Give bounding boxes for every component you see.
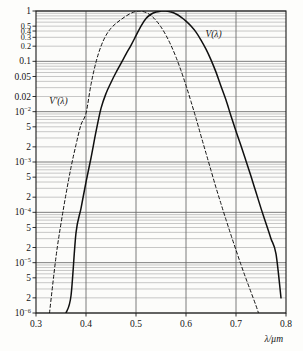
y-axis-tick-label: 0.1 (19, 56, 31, 66)
x-axis-tick-label: 0.5 (130, 319, 142, 329)
scotopic-curve-label: V'(λ) (49, 96, 67, 107)
figure-container: 0.30.40.50.60.70.8 10.50.40.30.20.10.050… (0, 0, 303, 351)
x-axis-tick-label: 0.3 (30, 319, 42, 329)
y-axis-tick-label: 0.3 (21, 33, 31, 42)
y-axis-tick-label: 2 (26, 142, 31, 152)
y-axis-tick-label: 2 (26, 243, 31, 253)
y-axis-tick-label: 5 (26, 172, 31, 182)
x-axis-tick-label: 0.4 (80, 319, 92, 329)
y-axis-tick-label: 1 (26, 6, 31, 16)
x-axis-tick-label: 0.7 (230, 319, 242, 329)
y-axis-tick-label: 0.05 (14, 72, 31, 82)
y-axis-tick-label: 5 (26, 122, 31, 132)
photopic-curve-label: V(λ) (205, 29, 221, 40)
y-axis-tick-label: 2 (26, 293, 31, 303)
y-axis-tick-label: 0.02 (14, 92, 31, 102)
y-axis-tick-label: 5 (26, 223, 31, 233)
y-axis-tick-label: 5 (26, 273, 31, 283)
x-axis-tick-label: 0.6 (180, 319, 192, 329)
x-axis-tick-label: 0.8 (280, 319, 292, 329)
x-axis-title: λ/μm (264, 334, 284, 344)
y-axis-tick-label: 0.2 (21, 42, 31, 51)
y-axis-tick-label: 2 (26, 192, 31, 202)
luminous-efficiency-chart: 0.30.40.50.60.70.8 10.50.40.30.20.10.050… (0, 0, 303, 351)
